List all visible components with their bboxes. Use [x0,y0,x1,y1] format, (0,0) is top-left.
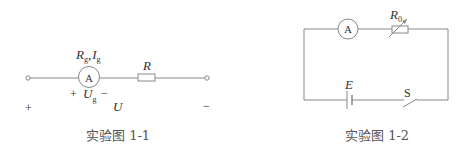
right-terminal [205,76,209,80]
figure-1-2 [304,19,448,109]
terminal-plus-sign: + [25,101,32,115]
ammeter-label: A [85,72,93,84]
resistor-label: R [142,58,151,73]
meter-voltage-label: Ug [83,86,96,104]
circuit-diagrams: A Rg,Ig R + Ug − + U − 实验图 1-1 A R0 E S … [0,0,475,149]
left-terminal [26,76,30,80]
terminal-minus-sign: − [203,99,210,113]
meter-plus-sign: + [70,87,77,101]
meter-params-label: Rg,Ig [75,47,101,64]
switch-blade [403,99,417,107]
meter-minus-sign: − [101,86,108,100]
caption-figure-1-2: 实验图 1-2 [345,128,409,143]
resistor-symbol [138,74,155,81]
rheostat-label: R0 [389,7,402,24]
caption-figure-1-1: 实验图 1-1 [86,128,150,143]
switch-label: S [404,86,411,100]
battery-label: E [344,77,353,92]
total-voltage-label: U [113,99,124,114]
figure-1-1 [26,67,209,88]
ammeter-label: A [344,23,352,35]
